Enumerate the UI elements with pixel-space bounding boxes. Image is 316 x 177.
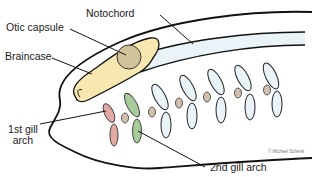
braincase-label: Braincase [5, 51, 52, 62]
second-gill-arch-label: 2nd gill arch [210, 162, 267, 173]
first-gill-arch-leader [40, 111, 106, 124]
first-gill-arch-upper [101, 102, 118, 124]
otic-capsule-label: Otic capsule [6, 22, 64, 33]
first-gill-arch-lower [110, 124, 118, 146]
gill-arch-series [149, 61, 282, 138]
gill-nodule [122, 113, 129, 123]
copyright-notice: © Michael Schenk [268, 149, 304, 154]
otic-capsule-leader [70, 29, 126, 55]
otic-capsule-shape [117, 45, 141, 69]
notochord-label: Notochord [86, 8, 134, 19]
leader-lines [40, 15, 205, 167]
second-gill-arch-lower [133, 119, 142, 143]
notochord-leader [160, 15, 193, 44]
second-gill-arch-leader [138, 131, 205, 167]
first-gill-arch-label: 1st gill arch [6, 124, 40, 146]
first-gill-arch-label-line2: arch [6, 135, 40, 146]
